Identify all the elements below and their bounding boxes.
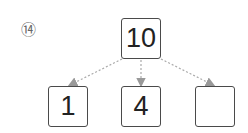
child-value-1: 1 <box>60 91 75 122</box>
arrow-left <box>70 59 122 85</box>
root-box: 10 <box>121 18 161 59</box>
child-value-2: 4 <box>133 91 148 122</box>
root-value: 10 <box>126 23 156 54</box>
child-box-2: 4 <box>121 86 161 127</box>
child-box-3-blank[interactable] <box>195 86 235 127</box>
arrow-right <box>161 59 213 85</box>
child-box-1: 1 <box>48 86 88 127</box>
